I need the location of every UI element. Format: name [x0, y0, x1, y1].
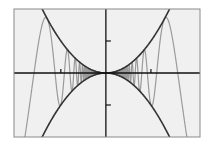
chart — [0, 0, 209, 146]
